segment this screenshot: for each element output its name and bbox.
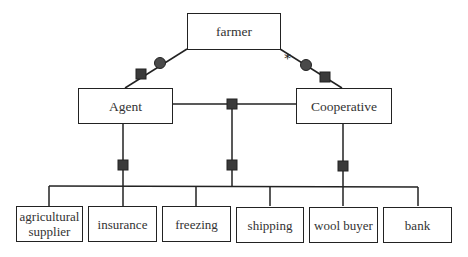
node-bank: bank bbox=[383, 207, 452, 243]
node-shipping: shipping bbox=[236, 207, 304, 243]
multiplicity-asterisk: * bbox=[284, 50, 291, 66]
node-insurance: insurance bbox=[88, 206, 157, 242]
node-agent: Agent bbox=[78, 88, 173, 124]
node-freezing: freezing bbox=[162, 206, 231, 242]
node-wool-buyer: wool buyer bbox=[309, 207, 378, 243]
node-agricultural-supplier: agricultural supplier bbox=[16, 206, 83, 242]
association-square-cooperative-down bbox=[338, 161, 348, 171]
association-circle-cooperative bbox=[301, 60, 312, 71]
association-square-middle-down bbox=[227, 160, 237, 170]
node-cooperative: Cooperative bbox=[296, 88, 392, 124]
association-square-agent bbox=[136, 69, 146, 79]
node-farmer: farmer bbox=[187, 13, 281, 50]
association-square-middle bbox=[227, 99, 237, 109]
association-square-cooperative bbox=[320, 72, 330, 82]
association-circle-agent bbox=[155, 58, 166, 69]
association-square-agent-down bbox=[118, 160, 128, 170]
